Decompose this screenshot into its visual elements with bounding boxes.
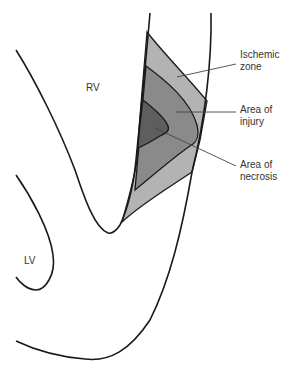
injury-area-label: Area of injury xyxy=(240,104,272,128)
lv-cavity-wall xyxy=(16,175,54,290)
ischemic-leader-line xyxy=(177,64,236,77)
necrosis-area-label: Area of necrosis xyxy=(240,159,277,183)
septum-lv-wall xyxy=(16,13,211,359)
rv-label: RV xyxy=(86,82,100,94)
lv-label: LV xyxy=(24,255,36,267)
rv-free-wall xyxy=(16,50,108,233)
ischemic-zone-label: Ischemic zone xyxy=(240,49,279,73)
